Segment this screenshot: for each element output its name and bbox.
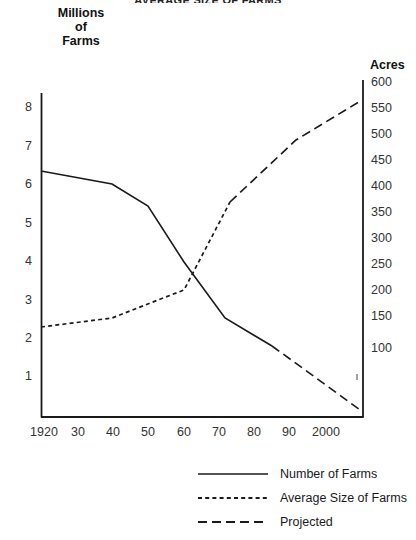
legend-swatch-dotted-icon <box>196 492 270 504</box>
legend-label-number-of-farms: Number of Farms <box>280 468 377 481</box>
legend-label-projected: Projected <box>280 516 333 529</box>
chart-legend: Number of Farms Average Size of Farms Pr… <box>196 462 416 534</box>
legend-item-number-of-farms: Number of Farms <box>196 462 416 486</box>
chart-container: AVERAGE SIZE OF FARMS Millions of Farms … <box>0 0 416 540</box>
legend-swatch-dashed-icon <box>196 516 270 528</box>
legend-item-average-size-of-farms: Average Size of Farms <box>196 486 416 510</box>
series-number-of-farms-projected <box>272 346 363 412</box>
series-average-size-projected <box>230 100 362 202</box>
plot-area <box>0 0 416 540</box>
series-average-size-of-farms <box>41 202 230 327</box>
legend-swatch-solid-icon <box>196 468 270 480</box>
legend-label-average-size-of-farms: Average Size of Farms <box>280 492 407 505</box>
legend-item-projected: Projected <box>196 510 416 534</box>
series-number-of-farms <box>41 171 272 346</box>
